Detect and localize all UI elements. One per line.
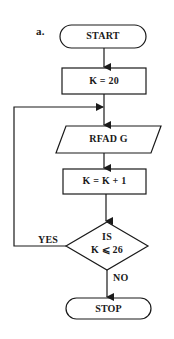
start-label: START bbox=[60, 30, 146, 41]
figure-label: a. bbox=[36, 25, 45, 37]
read-label: RFAD G bbox=[58, 133, 159, 144]
yes-edge-label: YES bbox=[38, 234, 58, 245]
decision-line1: IS bbox=[66, 231, 148, 242]
stop-label: STOP bbox=[66, 303, 151, 314]
decision-line2: K ⩽ 26 bbox=[66, 244, 148, 255]
increment-label: K = K + 1 bbox=[63, 175, 146, 186]
flowchart-canvas bbox=[0, 0, 174, 339]
no-edge-label: NO bbox=[113, 272, 128, 283]
init-label: K = 20 bbox=[62, 75, 146, 86]
